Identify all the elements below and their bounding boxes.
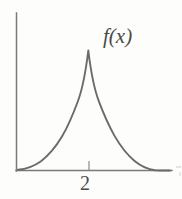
x-tick-label-2: 2	[80, 173, 90, 193]
figure-container: f(x) 2	[0, 0, 182, 199]
density-curve-path	[18, 51, 170, 171]
right-edge-artifact-tick	[179, 172, 181, 176]
plot-canvas	[0, 0, 182, 199]
function-label: f(x)	[103, 26, 132, 47]
right-edge-artifact	[176, 166, 181, 168]
